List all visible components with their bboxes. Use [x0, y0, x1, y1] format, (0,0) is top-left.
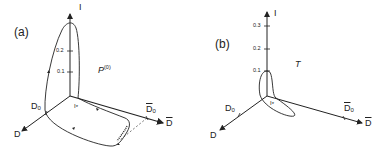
- panel-label-a: (a): [14, 26, 29, 38]
- axis-label-dbar: D: [365, 119, 372, 128]
- axis-marker-d0: D0: [225, 104, 235, 113]
- tick-label-0-2: 0.2: [253, 46, 261, 52]
- axis-label-d: D: [14, 130, 21, 139]
- axis-marker-d0: D0: [31, 102, 41, 111]
- phase-portrait-b: [190, 0, 381, 154]
- tick-label-0-1: 0.1: [57, 69, 65, 75]
- phase-portrait-a: [0, 0, 190, 154]
- panel-b: (b) I 0.3 0.2 0.1 T I* D0 D D0 D: [190, 0, 381, 154]
- curve-label-t: T: [295, 60, 301, 69]
- curve-label-p0: P(0): [98, 60, 111, 76]
- tick-label-0-3: 0.3: [253, 23, 261, 29]
- axis-label-i: I: [79, 3, 82, 12]
- axis-d: [220, 96, 267, 130]
- trajectory-p0: [45, 23, 130, 146]
- panel-a: (a) I 0.2 0.1 P(0) I* D0 D D0 D: [0, 0, 190, 154]
- origin-marker-label: I*: [270, 98, 274, 107]
- axis-label-dbar: D: [166, 119, 173, 128]
- axis-label-i: I: [274, 9, 277, 18]
- origin-marker-label: I*: [74, 101, 78, 110]
- axis-label-d: D: [210, 131, 217, 140]
- trajectory-t: [259, 71, 295, 116]
- panel-label-b: (b): [215, 38, 230, 50]
- tick-label-0-2: 0.2: [56, 48, 64, 54]
- tick-label-0-1: 0.1: [253, 68, 261, 74]
- axis-marker-dbar0: D0: [146, 105, 156, 114]
- axis-marker-dbar0: D0: [344, 104, 354, 113]
